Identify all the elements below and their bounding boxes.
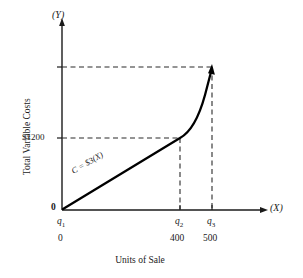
x-axis-title: Units of Sale — [0, 256, 280, 266]
y-axis-symbol-label: (Y) — [52, 10, 64, 20]
x-axis-ticks — [180, 205, 212, 210]
y-axis — [59, 18, 65, 210]
x-axis-symbol-label: (X) — [270, 203, 283, 213]
origin-label: 0 — [51, 203, 56, 213]
y-axis-ticks — [57, 67, 62, 138]
q1-subscript: 1 — [62, 221, 66, 229]
x-tick-value-q1: 0 — [58, 234, 63, 244]
chart-plot-area — [0, 0, 303, 278]
x-tick-symbol-q1: q1 — [57, 217, 65, 229]
q3-subscript: 3 — [212, 221, 216, 229]
q2-subscript: 2 — [180, 221, 184, 229]
x-axis — [62, 207, 268, 213]
reference-lines-dashed — [62, 67, 212, 209]
x-tick-symbol-q3: q3 — [207, 217, 215, 229]
x-tick-symbol-q2: q2 — [175, 217, 183, 229]
variable-cost-chart-figure: (Y) (X) Total Variable Costs Units of Sa… — [0, 0, 303, 278]
x-tick-value-q2: 400 — [170, 234, 184, 244]
x-tick-value-q3: 500 — [203, 234, 217, 244]
y-tick-label-1200: $1200 — [22, 133, 45, 142]
cost-curve — [63, 64, 215, 209]
